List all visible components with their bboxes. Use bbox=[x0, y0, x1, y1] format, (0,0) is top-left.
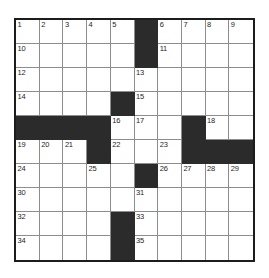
crossword-cell[interactable] bbox=[206, 92, 230, 116]
crossword-cell[interactable] bbox=[182, 92, 206, 116]
crossword-cell[interactable] bbox=[40, 188, 64, 212]
crossword-clue-number: 35 bbox=[136, 236, 144, 245]
crossword-cell[interactable] bbox=[182, 236, 206, 260]
crossword-cell[interactable]: 10 bbox=[16, 44, 40, 68]
crossword-cell[interactable] bbox=[40, 44, 64, 68]
crossword-cell[interactable] bbox=[40, 92, 64, 116]
crossword-cell[interactable]: 11 bbox=[158, 44, 182, 68]
crossword-clue-number: 8 bbox=[207, 20, 211, 29]
crossword-cell[interactable]: 3 bbox=[63, 20, 87, 44]
crossword-cell[interactable]: 6 bbox=[158, 20, 182, 44]
crossword-cell[interactable]: 18 bbox=[206, 116, 230, 140]
crossword-cell[interactable] bbox=[158, 68, 182, 92]
crossword-cell[interactable] bbox=[63, 92, 87, 116]
crossword-cell[interactable] bbox=[158, 188, 182, 212]
crossword-cell[interactable] bbox=[63, 188, 87, 212]
crossword-cell[interactable]: 14 bbox=[16, 92, 40, 116]
crossword-cell[interactable] bbox=[206, 44, 230, 68]
crossword-cell[interactable] bbox=[87, 92, 111, 116]
crossword-cell[interactable] bbox=[111, 164, 135, 188]
crossword-cell[interactable] bbox=[111, 188, 135, 212]
crossword-cell[interactable]: 31 bbox=[135, 188, 159, 212]
crossword-cell[interactable] bbox=[87, 188, 111, 212]
crossword-cell[interactable] bbox=[182, 44, 206, 68]
crossword-block-cell bbox=[206, 140, 230, 164]
crossword-block-cell bbox=[63, 116, 87, 140]
crossword-cell[interactable] bbox=[158, 92, 182, 116]
crossword-cell[interactable]: 2 bbox=[40, 20, 64, 44]
crossword-block-cell bbox=[229, 140, 253, 164]
crossword-cell[interactable]: 22 bbox=[111, 140, 135, 164]
crossword-cell[interactable]: 4 bbox=[87, 20, 111, 44]
crossword-cell[interactable] bbox=[158, 236, 182, 260]
crossword-cell[interactable] bbox=[111, 68, 135, 92]
crossword-block-cell bbox=[182, 140, 206, 164]
crossword-cell[interactable]: 23 bbox=[158, 140, 182, 164]
crossword-cell[interactable]: 25 bbox=[87, 164, 111, 188]
crossword-grid[interactable]: 1234567891011121314151617181920212223242… bbox=[16, 20, 253, 260]
crossword-cell[interactable]: 13 bbox=[135, 68, 159, 92]
crossword-cell[interactable] bbox=[40, 236, 64, 260]
crossword-cell[interactable] bbox=[158, 116, 182, 140]
crossword-cell[interactable] bbox=[229, 116, 253, 140]
crossword-cell[interactable] bbox=[229, 92, 253, 116]
crossword-cell[interactable] bbox=[229, 188, 253, 212]
crossword-cell[interactable]: 5 bbox=[111, 20, 135, 44]
crossword-cell[interactable] bbox=[206, 236, 230, 260]
crossword-cell[interactable] bbox=[229, 236, 253, 260]
crossword-cell[interactable]: 33 bbox=[135, 212, 159, 236]
crossword-cell[interactable] bbox=[206, 212, 230, 236]
crossword-cell[interactable]: 19 bbox=[16, 140, 40, 164]
crossword-clue-number: 26 bbox=[160, 164, 168, 173]
crossword-clue-number: 1 bbox=[18, 20, 22, 29]
crossword-cell[interactable]: 28 bbox=[206, 164, 230, 188]
crossword-cell[interactable]: 9 bbox=[229, 20, 253, 44]
crossword-clue-number: 10 bbox=[18, 44, 26, 53]
crossword-cell[interactable] bbox=[206, 188, 230, 212]
crossword-cell[interactable]: 26 bbox=[158, 164, 182, 188]
crossword-cell[interactable] bbox=[87, 44, 111, 68]
crossword-clue-number: 14 bbox=[18, 92, 26, 101]
crossword-cell[interactable] bbox=[229, 212, 253, 236]
crossword-cell[interactable] bbox=[229, 44, 253, 68]
crossword-cell[interactable]: 27 bbox=[182, 164, 206, 188]
crossword-cell[interactable] bbox=[87, 212, 111, 236]
crossword-cell[interactable]: 34 bbox=[16, 236, 40, 260]
crossword-cell[interactable]: 15 bbox=[135, 92, 159, 116]
crossword-cell[interactable] bbox=[63, 68, 87, 92]
crossword-cell[interactable]: 7 bbox=[182, 20, 206, 44]
crossword-cell[interactable] bbox=[182, 188, 206, 212]
crossword-cell[interactable]: 21 bbox=[63, 140, 87, 164]
crossword-cell[interactable]: 1 bbox=[16, 20, 40, 44]
crossword-cell[interactable]: 30 bbox=[16, 188, 40, 212]
crossword-cell[interactable] bbox=[40, 68, 64, 92]
crossword-cell[interactable] bbox=[182, 212, 206, 236]
crossword-clue-number: 5 bbox=[112, 20, 116, 29]
crossword-cell[interactable] bbox=[63, 236, 87, 260]
crossword-cell[interactable]: 8 bbox=[206, 20, 230, 44]
crossword-cell[interactable] bbox=[206, 68, 230, 92]
crossword-cell[interactable]: 17 bbox=[135, 116, 159, 140]
crossword-cell[interactable]: 16 bbox=[111, 116, 135, 140]
crossword-cell[interactable]: 24 bbox=[16, 164, 40, 188]
crossword-cell[interactable] bbox=[63, 212, 87, 236]
crossword-cell[interactable]: 35 bbox=[135, 236, 159, 260]
crossword-cell[interactable] bbox=[182, 68, 206, 92]
crossword-cell[interactable] bbox=[63, 44, 87, 68]
crossword-cell[interactable] bbox=[87, 236, 111, 260]
crossword-cell[interactable] bbox=[63, 164, 87, 188]
crossword-cell[interactable] bbox=[40, 164, 64, 188]
crossword-cell[interactable]: 29 bbox=[229, 164, 253, 188]
crossword-cell[interactable]: 32 bbox=[16, 212, 40, 236]
crossword-clue-number: 13 bbox=[136, 68, 144, 77]
crossword-cell[interactable]: 20 bbox=[40, 140, 64, 164]
crossword-cell[interactable] bbox=[135, 140, 159, 164]
crossword-cell[interactable]: 12 bbox=[16, 68, 40, 92]
crossword-cell[interactable] bbox=[40, 212, 64, 236]
crossword-clue-number: 34 bbox=[18, 236, 26, 245]
crossword-cell[interactable] bbox=[158, 212, 182, 236]
crossword-clue-number: 12 bbox=[18, 68, 26, 77]
crossword-cell[interactable] bbox=[229, 68, 253, 92]
crossword-cell[interactable] bbox=[87, 68, 111, 92]
crossword-cell[interactable] bbox=[111, 44, 135, 68]
